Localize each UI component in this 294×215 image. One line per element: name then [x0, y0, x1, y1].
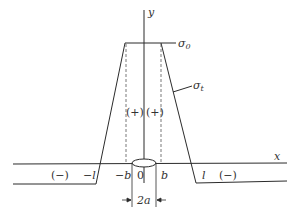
- origin-label: 0: [137, 169, 144, 182]
- minus-left-label: (−): [51, 169, 69, 182]
- width-2a-label: 2a: [136, 194, 151, 207]
- neg-b-label: −b: [115, 169, 131, 182]
- hole-ellipse: [132, 159, 156, 167]
- arrowhead-left: [127, 198, 131, 202]
- plus-left-label: (+): [126, 106, 144, 119]
- sigmat-label: σt: [193, 79, 205, 93]
- l-label: l: [202, 169, 206, 182]
- stress-diagram: y x σ0 σt (+) (+) (−) −l −b 0 b l (−) 2a: [0, 0, 294, 215]
- arrowhead-right: [157, 198, 161, 202]
- sigma0-label: σ0: [178, 37, 191, 51]
- sigmat-leader: [173, 86, 192, 92]
- neg-l-label: −l: [83, 169, 96, 182]
- x-axis-label: x: [274, 150, 281, 163]
- y-axis-label: y: [147, 6, 155, 19]
- minus-right-label: (−): [219, 169, 237, 182]
- plus-right-label: (+): [146, 106, 164, 119]
- b-label: b: [161, 169, 168, 182]
